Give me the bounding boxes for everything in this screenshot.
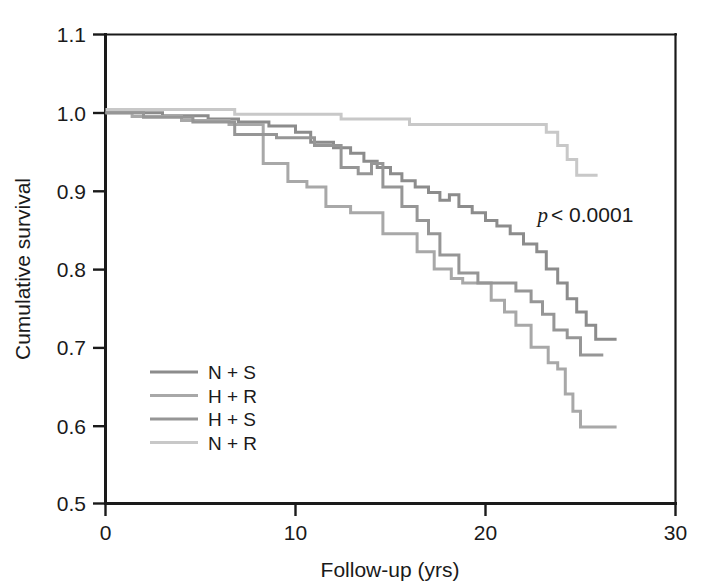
chart-legend: N + SH + RH + SN + R: [150, 362, 257, 454]
plot-frame: [105, 33, 677, 505]
y-axis-tick-labels: 1.1 1.0 0.9 0.8 0.7 0.6 0.5: [57, 23, 86, 515]
y-tick-label-1-0: 1.0: [57, 102, 86, 125]
curve-n-plus-r: [106, 110, 598, 176]
x-tick-label-30: 30: [664, 521, 687, 544]
y-tick-label-0-9: 0.9: [57, 180, 86, 203]
curve-h-plus-s: [106, 113, 604, 355]
x-axis-title: Follow-up (yrs): [321, 558, 460, 581]
y-tick-label-0-5: 0.5: [57, 492, 86, 515]
p-value-symbol: p: [536, 203, 549, 227]
svg-text:p: p: [536, 203, 549, 227]
legend-label-n-plus-s: N + S: [208, 362, 256, 383]
p-value-text: < 0.0001: [551, 203, 633, 226]
legend-label-n-plus-r: N + R: [208, 433, 257, 454]
y-tick-label-0-6: 0.6: [57, 415, 86, 438]
legend-label-h-plus-r: H + R: [208, 386, 257, 407]
x-tick-label-0: 0: [100, 521, 112, 544]
y-axis-title: Cumulative survival: [11, 178, 34, 360]
x-axis-ticks: [106, 504, 676, 517]
legend-label-h-plus-s: H + S: [208, 409, 256, 430]
data-curves: [106, 110, 617, 427]
p-value-annotation: p < 0.0001: [536, 203, 634, 227]
x-axis-tick-labels: 0 10 20 30: [100, 521, 688, 544]
curve-h-plus-r: [106, 113, 617, 427]
y-tick-label-1-1: 1.1: [57, 23, 86, 46]
y-tick-label-0-7: 0.7: [57, 336, 86, 359]
y-tick-label-0-8: 0.8: [57, 258, 86, 281]
survival-curve-chart: 1.1 1.0 0.9 0.8 0.7 0.6 0.5 0 10 20 30 F…: [0, 0, 702, 588]
y-axis-ticks: [93, 35, 105, 504]
x-tick-label-10: 10: [284, 521, 307, 544]
chart-figure: 1.1 1.0 0.9 0.8 0.7 0.6 0.5 0 10 20 30 F…: [0, 0, 702, 588]
x-tick-label-20: 20: [474, 521, 497, 544]
